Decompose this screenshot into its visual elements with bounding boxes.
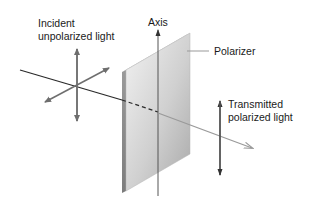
incident-polarization-arrows-icon: [45, 49, 109, 121]
transmitted-label-line1: Transmitted: [228, 98, 293, 111]
incident-label-line2: unpolarized light: [38, 30, 114, 43]
polarizer-diagram: Incident unpolarized light Axis Polarize…: [0, 0, 310, 207]
transmitted-label-line2: polarized light: [228, 111, 293, 124]
polarizer-plate: [122, 33, 190, 193]
transmitted-label: Transmitted polarized light: [228, 98, 293, 124]
axis-label: Axis: [148, 16, 168, 29]
incident-label: Incident unpolarized light: [38, 17, 114, 43]
incident-label-line1: Incident: [38, 17, 114, 30]
incident-beam: [20, 70, 122, 100]
polarizer-label: Polarizer: [214, 45, 255, 58]
